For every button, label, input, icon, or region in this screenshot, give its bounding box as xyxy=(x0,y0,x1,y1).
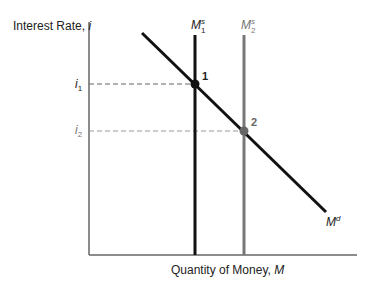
point-1 xyxy=(191,80,200,89)
i1-tick-label: i1 xyxy=(75,77,83,93)
md-label: Md xyxy=(326,214,341,229)
md-curve xyxy=(142,33,326,212)
x-axis-label: Quantity of Money, M xyxy=(171,263,284,277)
money-market-diagram: 1 2 Interest Rate, i Quantity of Money, … xyxy=(0,0,372,286)
y-axis-label: Interest Rate, i xyxy=(13,19,91,33)
ms1-sub: 1 xyxy=(201,26,206,35)
point-1-label: 1 xyxy=(202,70,208,82)
ms2-sub: 2 xyxy=(251,26,256,35)
point-2-label: 2 xyxy=(251,116,257,128)
point-2 xyxy=(240,127,249,136)
i2-tick-label: i2 xyxy=(75,123,83,139)
